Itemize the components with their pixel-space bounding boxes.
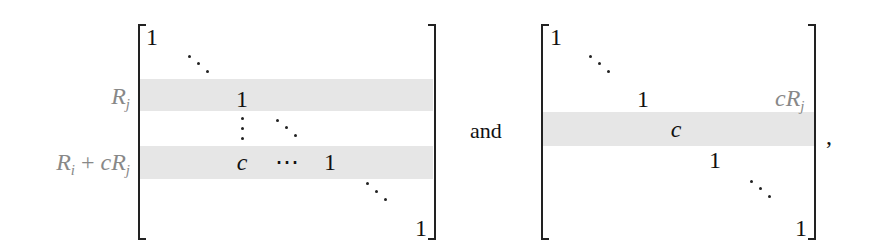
connector-and: and: [470, 120, 502, 142]
entry-bottom-right: 1: [415, 216, 427, 240]
ddots-3: [375, 190, 378, 193]
entry-c: c: [237, 150, 248, 174]
label-ri: R: [56, 149, 71, 175]
ddots-1: [197, 62, 200, 65]
entry-hdots: ⋯: [275, 150, 299, 174]
label-sub: j: [126, 162, 130, 178]
right-bracket-open: [541, 24, 549, 240]
ddots-2: [750, 180, 753, 183]
row-label-rj: Rj: [111, 84, 130, 112]
ddots-1: [607, 70, 610, 73]
entry-row-after: 1: [709, 148, 721, 172]
vdots: [241, 137, 244, 140]
ddots-2: [276, 119, 279, 122]
label-plus: +: [75, 149, 101, 175]
label-base: R: [111, 83, 126, 109]
highlight-row-rj: [140, 79, 433, 111]
entry-rj-pivot: 1: [236, 87, 248, 111]
label-crj: cR: [101, 149, 126, 175]
column-label-crj: cRj: [775, 86, 804, 114]
entry-c: c: [671, 117, 682, 141]
entry-ri-pivot: 1: [324, 150, 336, 174]
entry-bottom-right: 1: [795, 216, 807, 240]
label-base: cR: [775, 85, 800, 111]
ddots-2: [294, 134, 297, 137]
ddots-3: [384, 198, 387, 201]
left-bracket-open: [138, 24, 146, 240]
ddots-2: [759, 187, 762, 190]
trailing-comma: ,: [826, 124, 832, 148]
label-sub: j: [800, 98, 804, 114]
vdots: [241, 117, 244, 120]
label-sub: j: [126, 96, 130, 112]
entry-top-left: 1: [146, 25, 158, 49]
left-bracket-close: [428, 24, 436, 240]
vdots: [241, 127, 244, 130]
ddots-1: [206, 70, 209, 73]
entry-top-left: 1: [550, 25, 562, 49]
row-label-ri-plus-crj: Ri + cRj: [56, 150, 130, 178]
ddots-1: [589, 55, 592, 58]
ddots-1: [598, 62, 601, 65]
ddots-2: [768, 195, 771, 198]
ddots-2: [285, 126, 288, 129]
ddots-1: [188, 55, 191, 58]
right-bracket-close: [808, 24, 816, 240]
ddots-3: [366, 182, 369, 185]
entry-row-one: 1: [637, 87, 649, 111]
